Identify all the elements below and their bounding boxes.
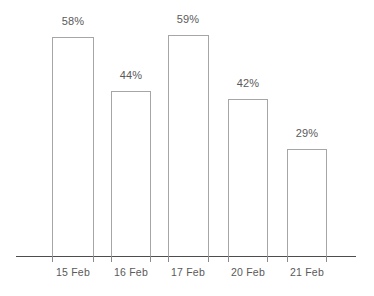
bar-value-label-1: 44% (101, 69, 161, 82)
x-axis-baseline (16, 256, 356, 257)
x-axis-label-4: 21 Feb (277, 266, 337, 279)
axis-tick-4b (326, 256, 327, 262)
axis-tick-1a (111, 256, 112, 262)
x-axis-label-0: 15 Feb (43, 266, 103, 279)
bar-value-label-3: 42% (218, 77, 278, 90)
bar-value-label-2: 59% (158, 13, 218, 26)
axis-tick-1b (150, 256, 151, 262)
axis-tick-2a (168, 256, 169, 262)
bar-0 (52, 37, 94, 257)
bar-1 (111, 91, 151, 257)
x-axis-label-3: 20 Feb (218, 266, 278, 279)
axis-tick-4a (287, 256, 288, 262)
x-axis-label-1: 16 Feb (101, 266, 161, 279)
bar-3 (228, 99, 268, 257)
plot-area: 58% 44% 59% 42% 29% 15 Feb 16 Feb 17 Feb… (0, 0, 374, 296)
x-axis-label-2: 17 Feb (158, 266, 218, 279)
axis-tick-2b (208, 256, 209, 262)
axis-tick-3b (267, 256, 268, 262)
bar-value-label-0: 58% (43, 15, 103, 28)
axis-tick-0a (52, 256, 53, 262)
axis-tick-3a (228, 256, 229, 262)
bar-4 (287, 149, 327, 257)
bar-chart: 58% 44% 59% 42% 29% 15 Feb 16 Feb 17 Feb… (0, 0, 374, 296)
axis-tick-0b (93, 256, 94, 262)
bar-2 (168, 35, 209, 257)
bar-value-label-4: 29% (277, 127, 337, 140)
